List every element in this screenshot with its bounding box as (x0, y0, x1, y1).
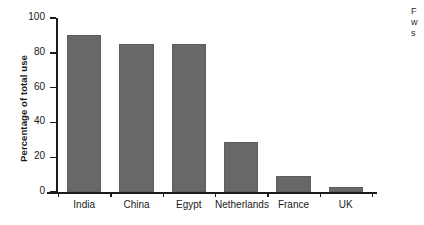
bar (172, 44, 206, 192)
x-axis-label: UK (320, 199, 372, 210)
y-tick-mark (50, 87, 56, 88)
side-caption-line-1: F (411, 6, 424, 17)
bar (119, 44, 153, 192)
bar (67, 35, 101, 192)
y-tick-label: 40 (0, 115, 45, 126)
y-tick-label: 60 (0, 81, 45, 92)
x-tick-mark (320, 192, 321, 197)
x-axis-line (47, 192, 377, 194)
side-caption-line-2: w (411, 17, 424, 28)
x-tick-mark (215, 192, 216, 197)
bar (224, 142, 258, 192)
x-axis-label: India (58, 199, 110, 210)
bar (276, 176, 310, 192)
side-caption: F w s (411, 6, 424, 39)
x-axis-label: China (110, 199, 162, 210)
x-axis-label: France (267, 199, 319, 210)
y-tick-label: 0 (0, 185, 45, 196)
x-tick-mark (267, 192, 268, 197)
y-tick-label: 100 (0, 11, 45, 22)
x-tick-mark (372, 192, 373, 197)
y-tick-mark (50, 17, 56, 18)
y-tick-mark (50, 191, 56, 192)
x-tick-mark (163, 192, 164, 197)
x-axis-label: Netherlands (215, 199, 267, 210)
y-tick-mark (50, 122, 56, 123)
x-tick-mark (110, 192, 111, 197)
y-axis-line (56, 18, 58, 193)
bar-chart-figure: Percentage of total use 020406080100 Ind… (0, 0, 424, 225)
side-caption-line-3: s (411, 28, 424, 39)
y-tick-label: 80 (0, 46, 45, 57)
y-tick-mark (50, 52, 56, 53)
y-tick-label: 20 (0, 150, 45, 161)
x-tick-mark (58, 192, 59, 197)
y-tick-mark (50, 157, 56, 158)
x-axis-label: Egypt (163, 199, 215, 210)
bar (329, 187, 363, 192)
